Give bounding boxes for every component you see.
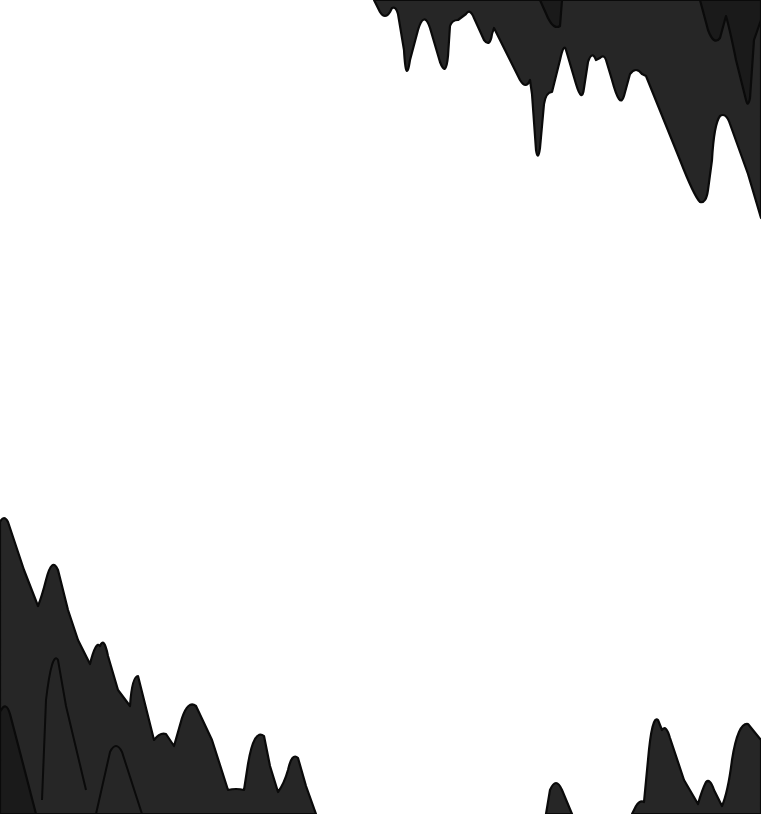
cave-scene xyxy=(0,0,761,814)
